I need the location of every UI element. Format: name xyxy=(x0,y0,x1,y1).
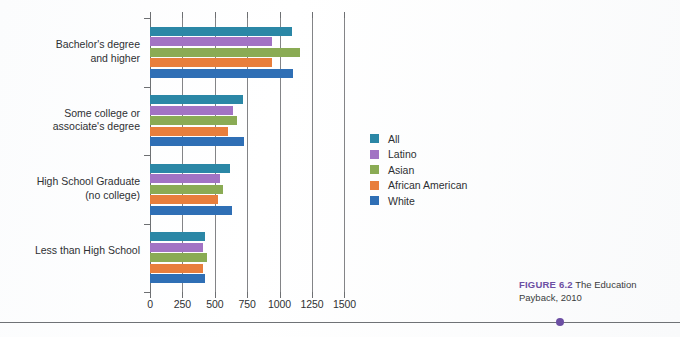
chart-legend: AllLatinoAsianAfrican AmericanWhite xyxy=(370,131,467,209)
bar-asian xyxy=(150,116,237,125)
bar-group xyxy=(150,87,344,156)
figure-number: FIGURE 6.2 xyxy=(519,279,573,290)
category-axis-tick xyxy=(144,18,150,19)
bar-latino xyxy=(150,106,233,115)
category-label: High School Graduate (no college) xyxy=(8,175,140,202)
x-tick-label-1000: 1000 xyxy=(268,298,291,310)
legend-label: Latino xyxy=(388,148,417,160)
x-tick-label-0: 0 xyxy=(147,298,153,310)
bar-asian xyxy=(150,48,300,57)
bar-all xyxy=(150,232,205,241)
bar-asian xyxy=(150,185,223,194)
bar-white xyxy=(150,137,244,146)
legend-item: White xyxy=(370,193,467,209)
gridline-1500 xyxy=(344,18,345,292)
bar-group xyxy=(150,155,344,224)
legend-item: All xyxy=(370,131,467,147)
bar-african-american xyxy=(150,58,272,67)
legend-item: African American xyxy=(370,178,467,194)
category-label: Bachelor's degree and higher xyxy=(8,38,140,65)
legend-label: Asian xyxy=(388,164,414,176)
legend-item: Latino xyxy=(370,147,467,163)
bar-african-american xyxy=(150,195,218,204)
category-label: Some college or associate's degree xyxy=(8,107,140,134)
legend-swatch-asian xyxy=(370,165,379,174)
bar-white xyxy=(150,69,293,78)
x-tick-label-500: 500 xyxy=(206,298,223,310)
legend-label: African American xyxy=(388,179,467,191)
bar-group xyxy=(150,18,344,87)
figure-caption: FIGURE 6.2 The Education Payback, 2010 xyxy=(519,278,671,304)
bar-all xyxy=(150,27,292,36)
category-axis-tick xyxy=(144,155,150,156)
category-axis-tick-end xyxy=(144,292,150,293)
bar-asian xyxy=(150,253,207,262)
bar-latino xyxy=(150,243,203,252)
bar-latino xyxy=(150,174,220,183)
bar-latino xyxy=(150,37,272,46)
category-axis-tick xyxy=(144,87,150,88)
legend-item: Asian xyxy=(370,162,467,178)
bar-all xyxy=(150,164,230,173)
figure-education-payback: Bachelor's degree and higherSome college… xyxy=(0,0,680,337)
bar-white xyxy=(150,274,205,283)
bar-group xyxy=(150,224,344,293)
page-footer-dot xyxy=(556,318,564,326)
tick-top-1500 xyxy=(344,12,345,18)
legend-swatch-latino xyxy=(370,150,379,159)
x-tick-label-750: 750 xyxy=(239,298,256,310)
bar-african-american xyxy=(150,127,228,136)
bar-all xyxy=(150,95,243,104)
category-axis-tick xyxy=(144,224,150,225)
bar-african-american xyxy=(150,264,203,273)
x-tick-label-1250: 1250 xyxy=(301,298,324,310)
legend-label: White xyxy=(388,195,415,207)
legend-swatch-african-american xyxy=(370,181,379,190)
bar-white xyxy=(150,206,232,215)
legend-label: All xyxy=(388,133,400,145)
legend-swatch-white xyxy=(370,196,379,205)
category-label: Less than High School xyxy=(8,244,140,258)
x-tick-label-1500: 1500 xyxy=(333,298,356,310)
page-footer-rule xyxy=(0,322,680,323)
legend-swatch-all xyxy=(370,134,379,143)
x-tick-label-250: 250 xyxy=(174,298,191,310)
chart-plot-area: 0250500750100012501500 xyxy=(150,18,344,292)
